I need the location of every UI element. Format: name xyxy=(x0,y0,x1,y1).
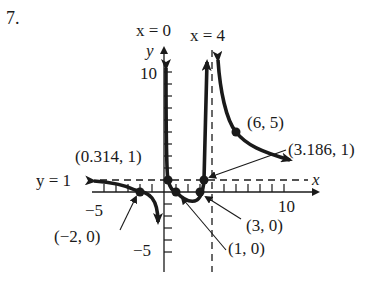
y-tick-label-neg5: −5 xyxy=(133,241,151,260)
label-point-0314-1: (0.314, 1) xyxy=(75,147,142,166)
curve-right-branch xyxy=(218,60,290,160)
label-point-3186-1: (3.186, 1) xyxy=(288,140,355,159)
y-tick-label-10: 10 xyxy=(140,64,157,83)
label-point-neg2-0: (−2, 0) xyxy=(54,227,100,246)
point-neg2-0 xyxy=(136,188,145,197)
point-3186-1 xyxy=(200,176,209,185)
point-3-0 xyxy=(196,188,205,197)
point-1-0 xyxy=(172,188,181,197)
y-axis-label: y xyxy=(144,41,154,60)
label-x-eq-4: x = 4 xyxy=(190,26,226,45)
x-axis-label: x xyxy=(311,170,320,189)
graph: x = 0 x = 4 y 10 −5 −5 10 x y = 1 (0.314… xyxy=(0,0,376,282)
label-point-1-0: (1, 0) xyxy=(228,239,265,258)
label-point-6-5: (6, 5) xyxy=(247,113,284,132)
label-point-3-0: (3, 0) xyxy=(246,216,283,235)
point-0314-1 xyxy=(164,176,173,185)
x-tick-label-10: 10 xyxy=(278,197,295,216)
point-6-5 xyxy=(232,128,241,137)
label-y-eq-1: y = 1 xyxy=(36,171,71,190)
x-tick-label-neg5: −5 xyxy=(85,201,103,220)
label-x-eq-0: x = 0 xyxy=(136,21,171,40)
